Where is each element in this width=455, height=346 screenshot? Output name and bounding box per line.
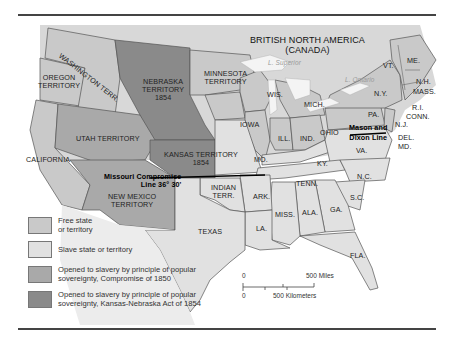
label-miss: MISS.	[275, 211, 295, 219]
label-wis: WIS.	[267, 91, 283, 99]
scale: 0 500 Miles 0 500 Kilometers	[242, 272, 342, 312]
legend-item-free: Free state or territory	[28, 216, 238, 234]
label-ala: ALA.	[302, 209, 318, 217]
label-va: VA.	[356, 147, 367, 155]
label-la: LA.	[256, 225, 267, 233]
legend-1854-line2: sovereignty, Kansas-Nebraska Act of 1854	[58, 299, 201, 308]
legend-1854-line1: Opened to slavery by principle of popula…	[58, 290, 201, 299]
missouri-compromise-line2: Line 36° 30'	[104, 181, 181, 189]
label-minnesota: MINNESOTA TERRITORY	[204, 70, 247, 86]
label-missouri-compromise: Missouri Compromise Line 36° 30'	[104, 173, 181, 189]
legend-free-line1: Free state	[58, 216, 93, 225]
legend-slave-line1: Slave state or territory	[58, 245, 132, 254]
legend-1850-line1: Opened to slavery by principle of popula…	[58, 265, 196, 274]
nebraska-line3: 1854	[142, 94, 184, 102]
label-md: MD.	[398, 143, 411, 151]
label-fla: FLA.	[350, 252, 366, 260]
label-ill: ILL.	[278, 135, 290, 143]
label-california: CALIFORNIA	[26, 156, 70, 164]
label-ark: ARK.	[253, 193, 270, 201]
swatch-slave	[28, 241, 52, 258]
label-me: ME.	[407, 57, 420, 65]
label-conn: CONN.	[406, 113, 430, 121]
label-iowa: IOWA	[240, 121, 259, 129]
label-mich: MICH.	[304, 101, 325, 109]
bottom-rule	[18, 328, 436, 330]
label-mo: MO.	[254, 156, 268, 164]
label-ind: IND.	[300, 135, 315, 143]
label-new-mexico: NEW MEXICO TERRITORY	[108, 193, 156, 209]
legend-item-slave: Slave state or territory	[28, 241, 238, 258]
label-lake-ontario: L. Ontario	[345, 76, 375, 84]
swatch-free	[28, 217, 52, 234]
label-vt: VT.	[383, 62, 394, 70]
label-lake-superior: L. Superior	[268, 59, 301, 67]
legend-item-compromise-1850: Opened to slavery by principle of popula…	[28, 265, 238, 283]
canada-line1: BRITISH NORTH AMERICA	[250, 35, 365, 45]
minnesota-line2: TERRITORY	[204, 78, 247, 86]
label-del: DEL.	[398, 134, 414, 142]
label-ohio: OHIO	[320, 129, 339, 137]
legend-free-line2: or territory	[58, 225, 93, 234]
label-nh: N.H.	[416, 78, 431, 86]
legend-text-free: Free state or territory	[58, 216, 93, 234]
label-indian-territory: INDIAN TERR.	[211, 184, 236, 200]
swatch-compromise-1850	[28, 266, 52, 283]
legend: Free state or territory Slave state or t…	[28, 216, 238, 315]
swatch-kansas-nebraska	[28, 291, 52, 308]
indian-line2: TERR.	[211, 192, 236, 200]
label-ri: R.I.	[412, 104, 424, 112]
legend-text-slave: Slave state or territory	[58, 245, 132, 254]
label-tenn: TENN.	[296, 180, 318, 188]
scale-zero-top: 0	[242, 272, 246, 279]
label-ky: KY.	[317, 160, 328, 168]
oregon-line2: TERRITORY	[38, 82, 80, 90]
canada-line2: (CANADA)	[250, 45, 365, 55]
label-mass: MASS.	[413, 88, 436, 96]
legend-text-compromise-1850: Opened to slavery by principle of popula…	[58, 265, 196, 283]
label-oregon: OREGON TERRITORY	[38, 74, 80, 90]
label-nebraska: NEBRASKA TERRITORY 1854	[142, 78, 184, 102]
label-mason-dixon: Mason and Dixon Line	[349, 124, 387, 142]
label-nj: N.J.	[395, 121, 408, 129]
label-ga: GA.	[330, 206, 343, 214]
label-ny: N.Y.	[374, 90, 387, 98]
legend-text-kansas-nebraska: Opened to slavery by principle of popula…	[58, 290, 201, 308]
scale-miles: 500 Miles	[306, 272, 334, 279]
scale-zero-bottom: 0	[242, 292, 246, 299]
legend-item-kansas-nebraska: Opened to slavery by principle of popula…	[28, 290, 238, 308]
label-nc: N.C.	[357, 173, 372, 181]
mason-dixon-line1: Mason and	[349, 124, 387, 132]
label-canada: BRITISH NORTH AMERICA (CANADA)	[250, 35, 365, 55]
label-kansas: KANSAS TERRITORY 1854	[164, 151, 238, 167]
mason-dixon-line2: Dixon Line	[349, 134, 387, 142]
kansas-line2: 1854	[164, 159, 238, 167]
label-sc: S.C.	[350, 194, 364, 202]
new-mexico-line2: TERRITORY	[108, 201, 156, 209]
label-utah: UTAH TERRITORY	[76, 135, 140, 143]
label-pa: PA.	[368, 111, 379, 119]
legend-1850-line2: sovereignty, Compromise of 1850	[58, 274, 196, 283]
scale-kilometers: 500 Kilometers	[273, 292, 316, 299]
